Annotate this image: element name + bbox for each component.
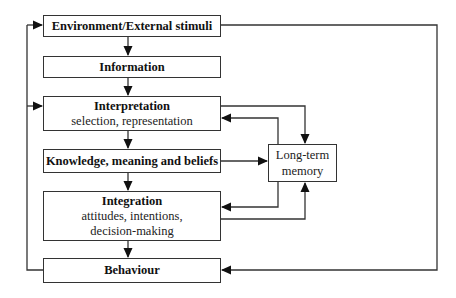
interpretation-title: Interpretation (94, 99, 170, 114)
information-title: Information (99, 60, 164, 75)
integration-subtitle-line2: decision-making (90, 224, 173, 239)
memory-label-line2: memory (282, 163, 324, 179)
arrow-interp-to-memory (221, 106, 305, 143)
integration-box: Integration attitudes, intentions, decis… (43, 191, 221, 241)
interpretation-box: Interpretation selection, representation (43, 96, 221, 131)
integration-title: Integration (102, 194, 162, 209)
left-loop-line (27, 25, 43, 270)
knowledge-title: Knowledge, meaning and beliefs (46, 154, 218, 169)
knowledge-box: Knowledge, meaning and beliefs (43, 149, 221, 173)
memory-label-line1: Long-term (276, 147, 329, 163)
arrow-integration-to-memory (221, 183, 305, 219)
behaviour-box: Behaviour (43, 258, 221, 283)
arrow-memory-to-integration (222, 182, 278, 207)
arrow-memory-to-interp (222, 118, 278, 144)
long-term-memory-box: Long-term memory (268, 144, 337, 182)
environment-box: Environment/External stimuli (43, 15, 221, 37)
behaviour-title: Behaviour (104, 263, 160, 278)
environment-title: Environment/External stimuli (52, 19, 213, 34)
information-box: Information (43, 56, 221, 78)
interpretation-subtitle: selection, representation (71, 114, 192, 129)
integration-subtitle-line1: attitudes, intentions, (81, 209, 182, 224)
